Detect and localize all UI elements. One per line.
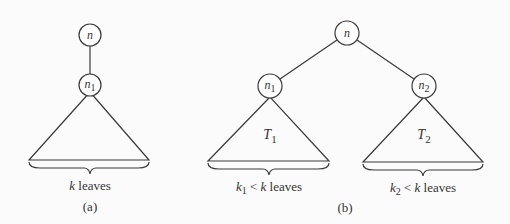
tree-diagram: n n1 k leaves (a) n n1 n2 T1 T2 k1 < k l… [0, 0, 510, 224]
caption-a: (a) [83, 199, 97, 214]
figure-a: n n1 k leaves (a) [29, 24, 149, 214]
edge-n-n1 [280, 40, 337, 79]
node-n-label: n [344, 26, 350, 40]
left-leaves-label: k1 < k leaves [236, 179, 302, 196]
tree-t1-label: T1 [263, 127, 276, 145]
right-leaves-label: k2 < k leaves [390, 180, 456, 197]
caption-b: (b) [337, 200, 352, 215]
figure-b: n n1 n2 T1 T2 k1 < k leaves k2 < k leave… [208, 21, 483, 215]
leaves-brace [29, 162, 149, 174]
subtree-triangle [29, 92, 149, 160]
tree-t2-label: T2 [417, 127, 430, 145]
edge-n-n2 [357, 40, 414, 79]
node-n-label: n [87, 28, 93, 42]
left-leaves-brace [208, 163, 329, 175]
right-leaves-brace [363, 164, 483, 176]
leaves-label: k leaves [69, 178, 111, 193]
